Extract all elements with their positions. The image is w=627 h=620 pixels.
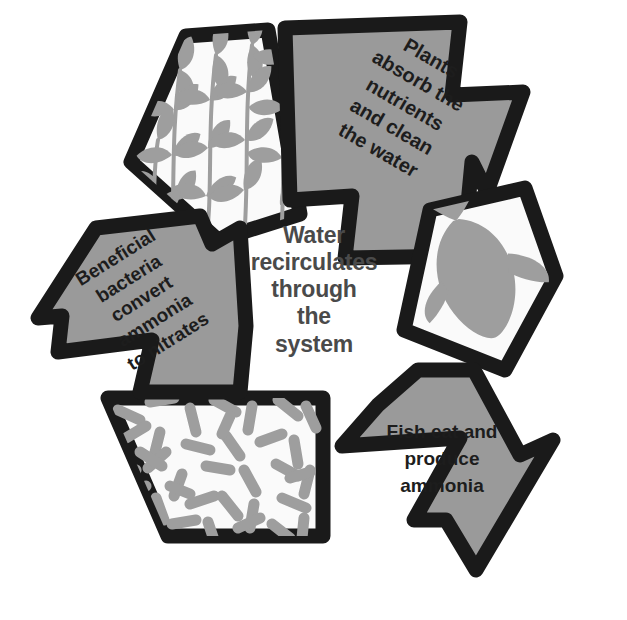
diagram-canvas bbox=[0, 0, 627, 620]
aquaponics-cycle-diagram: Water recirculates through the system Pl… bbox=[0, 0, 627, 620]
arrow-fish bbox=[342, 370, 553, 570]
arrow-bacteria-shape bbox=[38, 216, 246, 392]
arrow-bacteria bbox=[38, 216, 246, 392]
arrow-fish-shape bbox=[342, 370, 553, 570]
bacteria-panel bbox=[108, 398, 323, 540]
